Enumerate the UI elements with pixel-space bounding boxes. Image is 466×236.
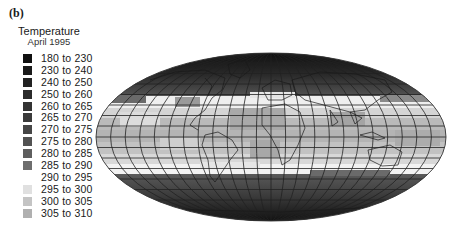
world-temperature-map — [0, 0, 466, 236]
